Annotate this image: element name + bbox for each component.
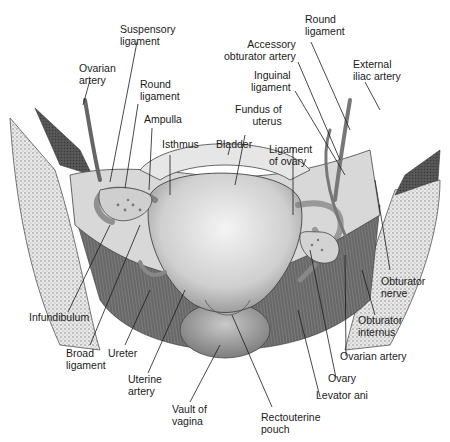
pelvic-anatomy-figure: Suspensory ligament Ovarian artery Round… (0, 0, 450, 442)
label-ovary: Ovary (328, 372, 356, 384)
label-obturator-internus: Obturator internus (358, 314, 402, 338)
label-ureter: Ureter (108, 347, 137, 359)
label-ovarian-artery-right: Ovarian artery (340, 350, 407, 362)
label-accessory-obturator-artery: Accessory obturator artery (224, 38, 296, 62)
label-inguinal-ligament: Inguinal ligament (251, 69, 291, 93)
label-obturator-nerve: Obturator nerve (381, 275, 425, 299)
label-rectouterine-pouch: Rectouterine pouch (261, 411, 321, 435)
label-suspensory-ligament: Suspensory ligament (120, 23, 175, 47)
label-fundus-of-uterus: Fundus of uterus (235, 103, 282, 127)
label-vault-of-vagina: Vault of vagina (172, 403, 207, 427)
label-broad-ligament: Broad ligament (66, 347, 106, 371)
label-ligament-of-ovary: Ligament of ovary (269, 143, 312, 167)
label-round-ligament-left: Round ligament (140, 78, 180, 102)
label-external-iliac-artery: External iliac artery (353, 58, 401, 82)
label-levator-ani: Levator ani (316, 389, 368, 401)
label-infundibulum: Infundibulum (29, 311, 89, 323)
label-isthmus: Isthmus (162, 138, 199, 150)
label-round-ligament-right: Round ligament (305, 13, 345, 37)
label-ovarian-artery-left: Ovarian artery (79, 62, 116, 86)
label-ampulla: Ampulla (144, 113, 182, 125)
label-uterine-artery: Uterine artery (128, 373, 162, 397)
label-bladder: Bladder (216, 138, 252, 150)
